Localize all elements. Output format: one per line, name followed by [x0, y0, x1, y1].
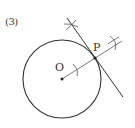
radius-extension-line [62, 41, 122, 79]
point-o-label: O [55, 61, 64, 74]
tangent-construction-diagram [0, 0, 135, 128]
construction-arc-inner [73, 64, 78, 76]
construction-cross-mark [64, 20, 78, 30]
point-p-dot [93, 56, 96, 59]
point-p-label: P [93, 41, 100, 54]
point-o-dot [61, 78, 64, 81]
construction-arc-outer-2 [108, 37, 119, 44]
